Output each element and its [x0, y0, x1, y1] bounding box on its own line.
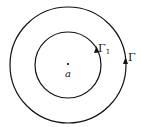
inner-contour-label: Γ1 — [98, 42, 110, 56]
outer-contour-label: Γ — [128, 51, 136, 64]
contour-diagram: a Γ1 Γ — [0, 0, 147, 127]
inner-contour-subscript: 1 — [106, 48, 110, 56]
center-point — [67, 63, 69, 65]
center-label: a — [65, 68, 71, 79]
